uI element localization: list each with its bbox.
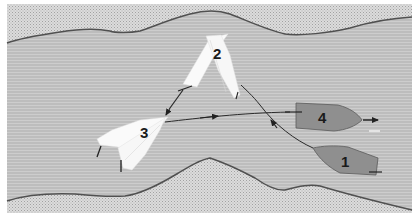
boat-4-label: 4 [318, 109, 327, 126]
river-diagram: 2 3 4 1 [0, 0, 419, 213]
boat-2-label: 2 [213, 45, 221, 62]
boat-1-label: 1 [341, 153, 349, 170]
boat-3-label: 3 [140, 124, 148, 141]
